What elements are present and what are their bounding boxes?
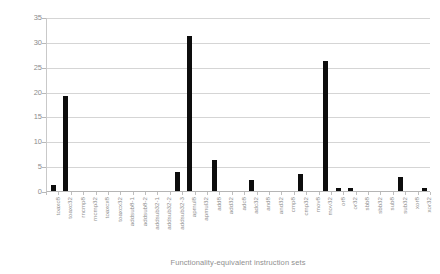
gridline	[47, 43, 430, 44]
x-tick-mark	[219, 192, 220, 195]
x-tick-mark	[232, 192, 233, 195]
x-tick-label: adc32	[253, 197, 259, 214]
bar	[63, 96, 68, 191]
x-tick-mark	[195, 192, 196, 195]
bar	[249, 180, 254, 191]
x-tick-label: sub32	[402, 197, 408, 214]
x-tick-label: addsub32-3	[179, 197, 185, 230]
x-tick-mark	[269, 192, 270, 195]
x-tick-label: and8	[265, 197, 271, 211]
x-tick-mark	[170, 192, 171, 195]
y-tick-label: 25	[16, 64, 42, 72]
x-tick-label: or32	[352, 197, 358, 209]
bar	[323, 61, 328, 191]
x-tick-mark	[244, 192, 245, 195]
x-tick-label: toaxcx32	[117, 197, 123, 222]
x-tick-label: sub8	[389, 197, 395, 210]
x-tick-mark	[46, 192, 47, 195]
x-tick-label: addsub8-1	[129, 197, 135, 226]
x-tick-label: toaxcx8	[104, 197, 110, 218]
bar	[187, 36, 192, 191]
plot-area	[46, 18, 430, 192]
x-tick-label: or8	[340, 197, 346, 206]
bar-chart: Frequency in % 05101520253035 toaxc8toax…	[0, 0, 440, 274]
y-tick-label: 35	[16, 14, 42, 22]
x-tick-label: add8	[216, 197, 222, 211]
x-tick-mark	[120, 192, 121, 195]
x-tick-mark	[281, 192, 282, 195]
gridline	[47, 167, 430, 168]
x-tick-mark	[356, 192, 357, 195]
x-tick-label: addsub32-1	[154, 197, 160, 230]
x-tick-label: apmul32	[203, 197, 209, 221]
x-tick-label: toaxc8	[55, 197, 61, 215]
x-tick-mark	[58, 192, 59, 195]
x-tick-label: rncmp32	[92, 197, 98, 221]
bar	[212, 160, 217, 191]
x-tick-mark	[430, 192, 431, 195]
y-tick-label: 5	[16, 163, 42, 171]
x-tick-label: xor8	[414, 197, 420, 209]
x-tick-mark	[108, 192, 109, 195]
bar	[336, 188, 341, 191]
bar	[298, 174, 303, 191]
gridline	[47, 68, 430, 69]
x-tick-mark	[368, 192, 369, 195]
x-tick-label: mov8	[315, 197, 321, 212]
x-tick-mark	[145, 192, 146, 195]
x-tick-mark	[319, 192, 320, 195]
x-tick-label: cmp32	[303, 197, 309, 216]
bar	[398, 177, 403, 191]
gridline	[47, 117, 430, 118]
x-tick-label: add32	[228, 197, 234, 214]
x-tick-mark	[380, 192, 381, 195]
x-tick-mark	[294, 192, 295, 195]
y-tick-label: 0	[16, 188, 42, 196]
gridline	[47, 142, 430, 143]
x-tick-mark	[71, 192, 72, 195]
x-tick-label: rncmp8	[80, 197, 86, 218]
y-tick-label: 30	[16, 39, 42, 47]
bar	[348, 188, 353, 191]
x-tick-label: mov32	[327, 197, 333, 216]
x-tick-mark	[157, 192, 158, 195]
x-axis-title: Functionality-equivalent instruction set…	[46, 258, 430, 267]
y-tick-label: 10	[16, 138, 42, 146]
bar	[422, 188, 427, 191]
x-tick-label: addsub8-2	[142, 197, 148, 226]
x-tick-mark	[182, 192, 183, 195]
x-tick-mark	[331, 192, 332, 195]
x-tick-mark	[393, 192, 394, 195]
gridline	[47, 93, 430, 94]
x-tick-mark	[343, 192, 344, 195]
x-tick-label: cmp8	[290, 197, 296, 212]
x-tick-mark	[96, 192, 97, 195]
y-tick-label: 15	[16, 113, 42, 121]
x-tick-label: apmul8	[191, 197, 197, 217]
x-tick-label: adc8	[241, 197, 247, 210]
x-tick-mark	[207, 192, 208, 195]
x-tick-label: sbb32	[377, 197, 383, 214]
x-tick-mark	[83, 192, 84, 195]
x-tick-label: sbb8	[364, 197, 370, 210]
x-tick-mark	[418, 192, 419, 195]
x-tick-mark	[405, 192, 406, 195]
x-tick-mark	[306, 192, 307, 195]
bar	[175, 172, 180, 191]
x-tick-label: xor32	[426, 197, 432, 212]
x-tick-label: addsub32-2	[166, 197, 172, 230]
gridline	[47, 18, 430, 19]
bar	[51, 185, 56, 191]
x-tick-label: and32	[278, 197, 284, 214]
y-tick-label: 20	[16, 89, 42, 97]
x-tick-mark	[257, 192, 258, 195]
x-tick-mark	[133, 192, 134, 195]
x-tick-label: toaxc32	[67, 197, 73, 219]
